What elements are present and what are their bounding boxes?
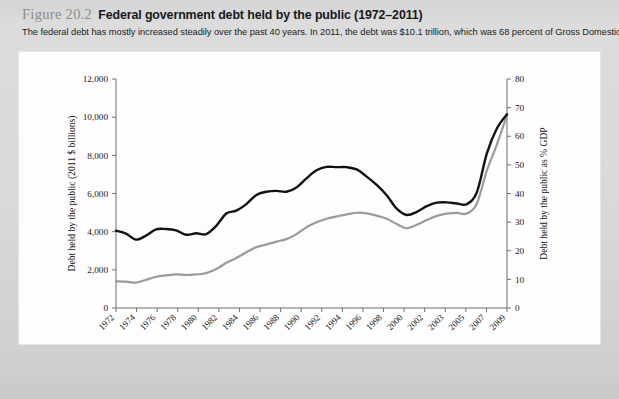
chart-canvas: 02,0004,0006,0008,00010,00012,000 010203… — [19, 52, 600, 344]
y-axis-right-tick-label: 50 — [515, 160, 525, 170]
x-axis-tick-label: 1980 — [179, 312, 199, 332]
x-axis-tick-label: 1982 — [200, 312, 220, 332]
x-axis-tick-label: 1974 — [117, 312, 137, 332]
y-axis-left: 02,0004,0006,0008,00010,00012,000 — [83, 74, 116, 313]
y-axis-right-tick-label: 70 — [515, 103, 525, 113]
figure-number: Figure 20.2 — [22, 6, 92, 22]
x-axis-tick-label: 2000 — [385, 312, 405, 332]
y-axis-right-tick-label: 10 — [515, 275, 525, 285]
x-axis-title: Year — [303, 343, 321, 344]
y-axis-left-tick-label: 2,000 — [87, 265, 108, 275]
y-axis-left-tick-label: 12,000 — [83, 74, 109, 84]
figure-subtitle: The federal debt has mostly increased st… — [22, 27, 602, 38]
x-axis-tick-label: 1994 — [323, 312, 343, 332]
y-axis-left-title: Debt held by the public (2011 $ billions… — [66, 115, 78, 271]
y-axis-left-tick-label: 4,000 — [87, 227, 108, 237]
y-axis-right-title: Debt held by the public as % GDP — [538, 127, 549, 259]
figure-title: Federal government debt held by the publ… — [98, 8, 422, 22]
y-axis-right-tick-label: 80 — [515, 74, 525, 84]
y-axis-left-tick-label: 10,000 — [83, 112, 109, 122]
data-series-line — [116, 115, 507, 282]
y-axis-left-tick-label: 8,000 — [87, 151, 108, 161]
figure-header: Figure 20.2Federal government debt held … — [22, 6, 602, 38]
x-axis-tick-label: 1998 — [364, 312, 384, 332]
x-axis-tick-label: 1986 — [241, 312, 261, 332]
data-series-line — [116, 114, 507, 239]
x-axis-tick-label: 1990 — [282, 312, 302, 332]
x-axis-tick-label: 2009 — [488, 312, 508, 332]
y-axis-right-tick-label: 40 — [515, 189, 525, 199]
x-axis-tick-label: 1978 — [158, 312, 178, 332]
x-axis-tick-label: 1972 — [97, 312, 117, 332]
x-axis-tick-label: 1996 — [344, 312, 364, 332]
figure-title-line: Figure 20.2Federal government debt held … — [22, 6, 602, 23]
x-axis-tick-label: 1976 — [138, 312, 158, 332]
y-axis-left-tick-label: 0 — [103, 303, 108, 313]
chart-panel: 02,0004,0006,0008,00010,00012,000 010203… — [19, 52, 600, 344]
x-axis-tick-label: 1988 — [261, 312, 281, 332]
y-axis-right-tick-label: 60 — [515, 131, 525, 141]
data-series-group — [116, 114, 507, 282]
y-axis-right-tick-label: 0 — [515, 303, 520, 313]
x-axis-tick-label: 1984 — [220, 312, 240, 332]
x-axis-tick-label: 1992 — [302, 312, 322, 332]
y-axis-right-tick-label: 30 — [515, 217, 525, 227]
x-axis-tick-label: 2005 — [446, 312, 466, 332]
x-axis-tick-label: 2002 — [405, 312, 425, 332]
y-axis-right-tick-label: 20 — [515, 246, 525, 256]
x-axis-tick-label: 2007 — [467, 312, 487, 332]
y-axis-right: 01020304050607080 — [507, 74, 525, 313]
x-axis: 1972197419761978198019821984198619881990… — [97, 308, 508, 332]
x-axis-tick-label: 2003 — [426, 312, 446, 332]
y-axis-left-tick-label: 6,000 — [87, 189, 108, 199]
